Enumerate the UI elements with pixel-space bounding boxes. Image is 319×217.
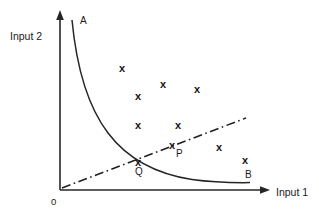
scatter-marker: x xyxy=(242,154,249,166)
curve-end-label-b: B xyxy=(245,169,252,180)
isoquant-curve xyxy=(72,20,250,183)
scatter-marker: x xyxy=(135,90,142,102)
curve-start-label-a: A xyxy=(80,15,87,26)
point-label-p: P xyxy=(176,148,183,159)
origin-label: 0 xyxy=(51,196,56,207)
point-label-q: Q xyxy=(135,166,143,177)
expansion-path-ray xyxy=(62,118,246,188)
isoquant-diagram: x x x x x x x x x x Input 2 Input 1 0 A … xyxy=(0,0,319,217)
y-axis-arrow-icon xyxy=(56,10,64,20)
scatter-marker: x xyxy=(216,141,223,153)
y-axis-label: Input 2 xyxy=(10,30,42,42)
scatter-marker: x xyxy=(135,119,142,131)
scatter-marker: x xyxy=(175,119,182,131)
diagram-canvas: x x x x x x x x x x Input 2 Input 1 0 A … xyxy=(0,0,319,217)
scatter-marker-p: x xyxy=(169,139,176,151)
scatter-marker: x xyxy=(160,78,167,90)
scatter-markers: x x x x x x x x x x xyxy=(119,62,249,168)
scatter-marker: x xyxy=(119,62,126,74)
scatter-marker: x xyxy=(194,83,201,95)
x-axis-label: Input 1 xyxy=(276,186,308,198)
x-axis-arrow-icon xyxy=(260,186,270,194)
